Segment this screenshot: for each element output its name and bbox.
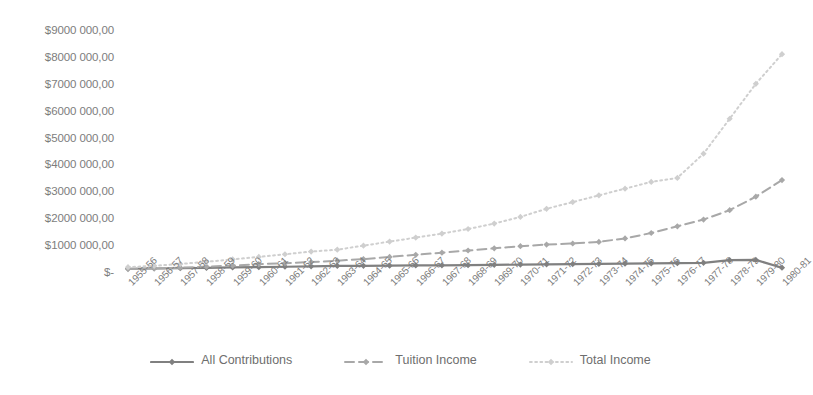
data-point-marker <box>596 239 602 245</box>
legend-item[interactable]: All Contributions <box>150 353 292 367</box>
data-point-marker <box>570 240 576 246</box>
data-point-marker <box>596 192 602 198</box>
y-tick-label: $3000 000,00 <box>45 185 114 197</box>
plot-svg <box>122 20 790 272</box>
data-point-marker <box>700 151 706 157</box>
data-point-marker <box>360 243 366 249</box>
chart-legend: All ContributionsTuition IncomeTotal Inc… <box>0 345 801 375</box>
legend-swatch-icon <box>529 354 573 366</box>
data-point-marker <box>413 234 419 240</box>
data-point-marker <box>543 206 549 212</box>
data-point-marker <box>439 230 445 236</box>
data-point-marker <box>517 214 523 220</box>
data-point-marker <box>491 221 497 227</box>
legend-label: Tuition Income <box>395 353 477 367</box>
data-point-marker <box>622 235 628 241</box>
series-line <box>128 180 782 269</box>
data-point-marker <box>308 248 314 254</box>
y-tick-label: $1000 000,00 <box>45 239 114 251</box>
data-point-marker <box>543 241 549 247</box>
y-tick-label: $- <box>104 266 114 278</box>
legend-label: Total Income <box>580 353 651 367</box>
data-point-marker <box>674 223 680 229</box>
legend-item[interactable]: Tuition Income <box>344 353 477 367</box>
data-point-marker <box>491 245 497 251</box>
data-point-marker <box>334 247 340 253</box>
y-tick-label: $5000 000,00 <box>45 132 114 144</box>
data-point-marker <box>517 243 523 249</box>
series-total-income <box>125 51 785 270</box>
data-point-marker <box>622 186 628 192</box>
data-point-marker <box>700 216 706 222</box>
legend-label: All Contributions <box>201 353 292 367</box>
x-axis: 1955-561956-571957-581958-591959-601960-… <box>122 274 790 336</box>
y-tick-label: $9000 000,00 <box>45 24 114 36</box>
series-layer <box>125 51 785 272</box>
y-axis: $9000 000,00$8000 000,00$7000 000,00$600… <box>0 0 122 290</box>
plot-area <box>122 20 790 272</box>
y-tick-label: $7000 000,00 <box>45 78 114 90</box>
legend-swatch-icon <box>344 354 388 366</box>
data-point-marker <box>465 247 471 253</box>
series-line <box>128 54 782 267</box>
data-point-marker <box>648 230 654 236</box>
y-tick-label: $2000 000,00 <box>45 212 114 224</box>
y-tick-label: $8000 000,00 <box>45 51 114 63</box>
y-tick-label: $4000 000,00 <box>45 158 114 170</box>
data-point-marker <box>570 199 576 205</box>
data-point-marker <box>465 226 471 232</box>
series-tuition-income <box>125 177 785 272</box>
data-point-marker <box>387 239 393 245</box>
data-point-marker <box>648 179 654 185</box>
legend-item[interactable]: Total Income <box>529 353 651 367</box>
y-tick-label: $6000 000,00 <box>45 105 114 117</box>
legend-swatch-icon <box>150 354 194 366</box>
